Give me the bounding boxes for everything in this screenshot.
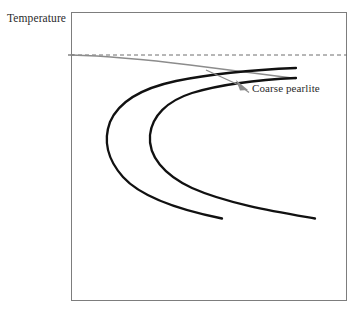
transformation-finish-curve [150,78,315,219]
y-axis-label: Temperature [7,12,66,24]
figure-root: Temperature Coarse pearlite [0,0,361,312]
coarse-pearlite-annotation-label: Coarse pearlite [252,82,320,94]
ttt-diagram-svg [0,0,361,312]
plot-frame [72,13,347,301]
coarse-pearlite-guide-curve [71,55,296,79]
